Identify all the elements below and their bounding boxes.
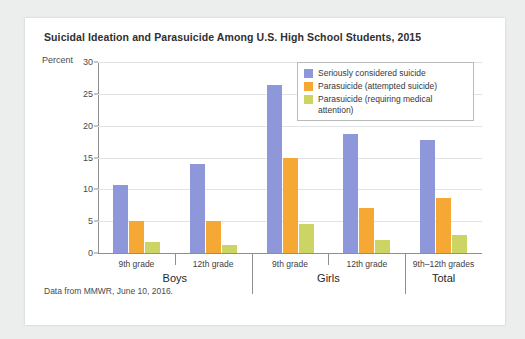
y-tick-label-5: 5 [67, 216, 93, 226]
x-group-label-total: Total [432, 272, 455, 284]
bar-green-1 [222, 245, 237, 253]
bar-green-0 [145, 242, 160, 253]
x-sub-label-2: 9th grade [272, 259, 308, 269]
y-axis-tick-labels: 051015202530 [65, 62, 93, 253]
x-sub-label-4: 9th–12th grades [413, 259, 474, 269]
x-sub-label-3: 12th grade [346, 259, 387, 269]
chart-legend: Seriously considered suicideParasuicide … [297, 62, 474, 121]
bar-orange-4 [436, 198, 451, 253]
legend-swatch-green [304, 95, 313, 104]
x-sub-label-0: 9th grade [118, 259, 154, 269]
group-separator-minor-0 [175, 254, 176, 265]
bar-blue-1 [190, 164, 205, 253]
bar-blue-3 [343, 134, 358, 253]
bar-green-2 [299, 224, 314, 253]
bar-blue-4 [420, 140, 435, 253]
gridline-0 [98, 253, 482, 254]
group-separator-major-1 [252, 254, 253, 294]
bar-green-4 [452, 235, 467, 253]
legend-swatch-orange [304, 82, 313, 91]
source-note: Data from MMWR, June 10, 2016. [44, 286, 173, 296]
bar-orange-3 [359, 208, 374, 253]
y-tick-label-0: 0 [67, 248, 93, 258]
legend-item-2: Parasuicide (requiring medical attention… [304, 94, 467, 115]
bar-blue-0 [113, 185, 128, 253]
group-separator-major-3 [405, 254, 406, 294]
y-tick-label-15: 15 [67, 153, 93, 163]
legend-label-0: Seriously considered suicide [318, 68, 426, 79]
gridline-20 [98, 126, 482, 127]
bar-orange-0 [129, 221, 144, 253]
y-tick-label-20: 20 [67, 121, 93, 131]
x-group-label-girls: Girls [317, 272, 340, 284]
legend-label-1: Parasuicide (attempted suicide) [318, 81, 437, 92]
x-sub-label-1: 12th grade [193, 259, 234, 269]
bar-green-3 [375, 240, 390, 253]
y-tick-label-10: 10 [67, 184, 93, 194]
page-title: Suicidal Ideation and Parasuicide Among … [44, 31, 421, 43]
legend-item-0: Seriously considered suicide [304, 68, 467, 79]
legend-label-2: Parasuicide (requiring medical attention… [318, 94, 467, 115]
legend-swatch-blue [304, 69, 313, 78]
bar-blue-2 [267, 85, 282, 253]
y-tick-label-25: 25 [67, 89, 93, 99]
y-tick-label-30: 30 [67, 57, 93, 67]
bar-orange-2 [283, 158, 298, 254]
group-separator-minor-2 [328, 254, 329, 265]
legend-item-1: Parasuicide (attempted suicide) [304, 81, 467, 92]
bar-orange-1 [206, 221, 221, 253]
chart-card: Suicidal Ideation and Parasuicide Among … [25, 18, 505, 325]
x-group-label-boys: Boys [163, 272, 187, 284]
